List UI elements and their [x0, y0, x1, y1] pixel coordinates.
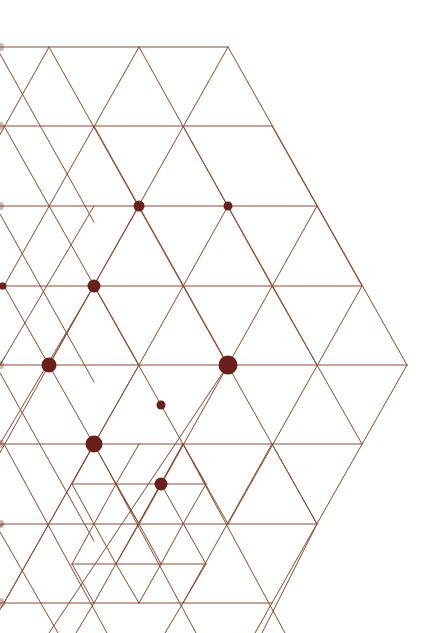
diagonal-line: [183, 444, 206, 484]
node-dot: [157, 401, 166, 410]
diagonal-line: [139, 484, 161, 524]
diagonal-line: [116, 444, 139, 484]
diagonal-line: [272, 365, 407, 603]
diagonal-line: [116, 564, 139, 603]
diagonal-line: [49, 47, 183, 286]
diagonal-line: [116, 524, 139, 564]
node-dot: [86, 436, 103, 453]
diagonal-line: [272, 444, 317, 524]
diagonal-line: [49, 365, 228, 633]
diagonal-line: [139, 524, 161, 564]
diagonal-line: [94, 444, 196, 633]
diagonal-line: [139, 564, 161, 603]
diagonal-line: [183, 484, 206, 524]
diagonal-line: [262, 524, 317, 633]
diagonal-line: [183, 564, 206, 603]
diagonal-line: [161, 524, 183, 564]
diagonal-line: [0, 54, 94, 222]
horizontal-grid-lines: [0, 47, 407, 603]
diagonal-line: [94, 365, 139, 444]
diagonal-line: [76, 603, 94, 633]
diagonal-line: [4, 47, 139, 286]
node-dot: [88, 280, 101, 293]
lattice-diagram: [0, 0, 447, 633]
diagonal-line: [94, 484, 116, 524]
diagonal-line: [0, 532, 58, 633]
diagonal-line: [161, 444, 183, 484]
node-dot: [224, 202, 233, 211]
diagonal-line: [165, 603, 183, 633]
diagonal-line: [94, 126, 228, 365]
diagonal-line: [183, 444, 285, 633]
node-dot: [155, 478, 168, 491]
diagonal-line: [228, 286, 362, 524]
diagonal-line: [72, 524, 94, 564]
node-dots: [0, 201, 238, 491]
node-dot: [219, 356, 238, 375]
diagonal-line: [0, 214, 94, 382]
diagonal-line: [0, 373, 94, 541]
diagonal-grid-lines: [0, 47, 407, 633]
node-dot: [134, 201, 145, 212]
node-dot: [42, 358, 57, 373]
